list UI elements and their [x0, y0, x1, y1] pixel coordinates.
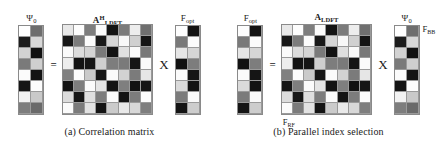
panel-b-center-matrix-wrapper: ALDFTFRF: [281, 13, 373, 116]
matrix-cell: [304, 25, 315, 36]
matrix-cell: [85, 25, 96, 36]
matrix-cell: [96, 36, 107, 47]
matrix-cell: [360, 36, 371, 47]
matrix-cell: [395, 103, 407, 114]
matrix-cell: [130, 81, 141, 92]
matrix-cell: [395, 48, 407, 59]
equation-row-b: Fopt=ALDFTFRFXΨ0FBB: [219, 14, 438, 114]
matrix-cell: [395, 81, 407, 92]
matrix-cell: [119, 58, 130, 69]
matrix-cell: [238, 48, 250, 59]
matrix-cell: [407, 81, 419, 92]
matrix-cell: [19, 59, 31, 70]
matrix-cell: [395, 92, 407, 103]
matrix-cell: [349, 92, 360, 103]
panel-b-right-matrix-label: Ψ0: [402, 14, 412, 25]
matrix-cell: [338, 70, 349, 81]
matrix-cell: [349, 70, 360, 81]
matrix-cell: [107, 25, 118, 36]
matrix-cell: [282, 36, 293, 47]
matrix-cell: [282, 103, 293, 114]
matrix-cell: [315, 103, 326, 114]
matrix-cell: [107, 47, 118, 58]
panel-b-fbb-label: FBB: [423, 24, 436, 35]
matrix-cell: [349, 103, 360, 114]
matrix-cell: [407, 59, 419, 70]
matrix-cell: [31, 70, 43, 81]
matrix-cell: [85, 81, 96, 92]
panel-b-right-matrix-grid: [394, 25, 420, 115]
matrix-cell: [395, 59, 407, 70]
matrix-cell: [119, 92, 130, 103]
matrix-cell: [238, 37, 250, 48]
matrix-cell: [349, 47, 360, 58]
matrix-cell: [107, 36, 118, 47]
panel-a-right-matrix-wrapper: Fopt: [175, 14, 201, 115]
matrix-cell: [293, 25, 304, 36]
matrix-cell: [326, 25, 337, 36]
matrix-cell: [130, 47, 141, 58]
matrix-cell: [304, 70, 315, 81]
matrix-cell: [188, 81, 200, 92]
matrix-cell: [293, 92, 304, 103]
matrix-cell: [96, 103, 107, 114]
matrix-cell: [304, 58, 315, 69]
matrix-cell: [74, 25, 85, 36]
matrix-cell: [407, 48, 419, 59]
matrix-cell: [74, 81, 85, 92]
matrix-cell: [188, 70, 200, 81]
matrix-cell: [293, 81, 304, 92]
matrix-cell: [326, 70, 337, 81]
matrix-cell: [293, 103, 304, 114]
matrix-cell: [282, 70, 293, 81]
matrix-cell: [188, 103, 200, 114]
matrix-cell: [238, 81, 250, 92]
matrix-cell: [349, 58, 360, 69]
matrix-cell: [19, 103, 31, 114]
matrix-cell: [141, 25, 152, 36]
matrix-cell: [188, 26, 200, 37]
matrix-cell: [85, 92, 96, 103]
equals-operator-a: =: [44, 59, 61, 70]
matrix-cell: [250, 26, 262, 37]
matrix-cell: [107, 58, 118, 69]
matrix-cell: [74, 36, 85, 47]
matrix-cell: [141, 36, 152, 47]
panel-a-center-matrix-grid: [62, 24, 154, 116]
matrix-cell: [238, 70, 250, 81]
matrix-cell: [85, 58, 96, 69]
matrix-cell: [238, 59, 250, 70]
matrix-cell: [176, 70, 188, 81]
matrix-cell: [326, 81, 337, 92]
matrix-cell: [188, 92, 200, 103]
matrix-cell: [85, 47, 96, 58]
matrix-cell: [250, 92, 262, 103]
matrix-cell: [63, 47, 74, 58]
matrix-cell: [238, 103, 250, 114]
matrix-cell: [141, 70, 152, 81]
matrix-cell: [326, 103, 337, 114]
panel-b-right-matrix-wrapper: Ψ0FBB: [394, 14, 420, 115]
matrix-cell: [176, 103, 188, 114]
matrix-cell: [31, 37, 43, 48]
matrix-cell: [293, 70, 304, 81]
matrix-cell: [63, 25, 74, 36]
matrix-cell: [304, 81, 315, 92]
matrix-cell: [326, 47, 337, 58]
matrix-cell: [96, 81, 107, 92]
matrix-cell: [304, 103, 315, 114]
matrix-cell: [326, 92, 337, 103]
matrix-cell: [188, 37, 200, 48]
matrix-cell: [282, 25, 293, 36]
matrix-cell: [304, 36, 315, 47]
matrix-cell: [141, 92, 152, 103]
matrix-cell: [176, 59, 188, 70]
matrix-cell: [31, 103, 43, 114]
matrix-cell: [407, 26, 419, 37]
panel-a-right-matrix-grid: [175, 25, 201, 115]
matrix-cell: [407, 92, 419, 103]
matrix-cell: [250, 59, 262, 70]
matrix-cell: [315, 70, 326, 81]
matrix-cell: [74, 92, 85, 103]
matrix-cell: [395, 70, 407, 81]
